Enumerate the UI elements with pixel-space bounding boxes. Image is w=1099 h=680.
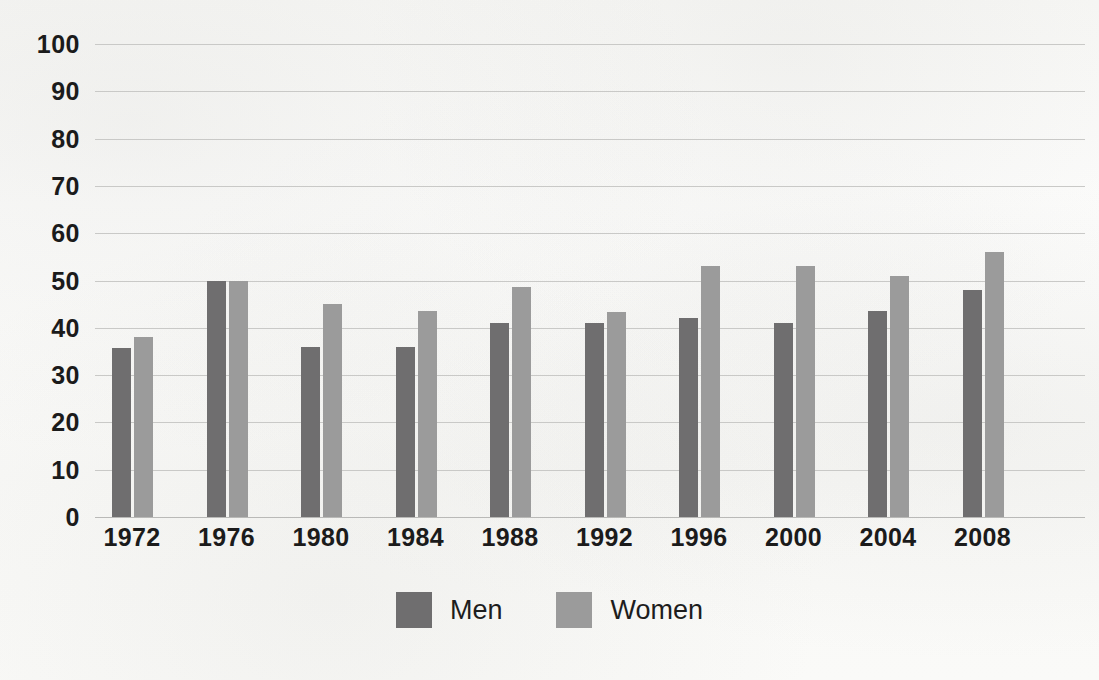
bar-group-2008 (963, 44, 1004, 517)
y-tick-label-90: 90 (8, 79, 80, 104)
bar-women-1988[interactable] (512, 287, 531, 517)
bar-men-1988[interactable] (490, 323, 509, 517)
x-tick-label-1996: 1996 (649, 525, 749, 550)
bar-women-1992[interactable] (607, 312, 626, 517)
x-axis: 1972197619801984198819921996200020042008 (95, 525, 1085, 565)
y-tick-label-0: 0 (8, 505, 80, 530)
bar-men-1996[interactable] (679, 318, 698, 517)
x-tick-label-1980: 1980 (271, 525, 371, 550)
bar-group-2004 (868, 44, 909, 517)
bar-women-2008[interactable] (985, 252, 1004, 517)
bar-men-1972[interactable] (112, 348, 131, 517)
y-tick-label-30: 30 (8, 363, 80, 388)
bar-group-1988 (490, 44, 531, 517)
x-tick-label-2000: 2000 (744, 525, 844, 550)
y-tick-label-100: 100 (8, 32, 80, 57)
bar-women-1980[interactable] (323, 304, 342, 517)
bar-women-2000[interactable] (796, 266, 815, 517)
bar-group-1972 (112, 44, 153, 517)
legend-item-men[interactable]: Men (396, 592, 503, 628)
x-tick-label-1972: 1972 (82, 525, 182, 550)
bar-women-1976[interactable] (229, 281, 248, 518)
x-tick-label-2008: 2008 (933, 525, 1033, 550)
y-tick-label-80: 80 (8, 126, 80, 151)
x-tick-label-1976: 1976 (177, 525, 277, 550)
bar-men-1984[interactable] (396, 347, 415, 517)
plot-area (95, 44, 1085, 517)
legend-swatch-women (556, 592, 592, 628)
x-tick-label-1992: 1992 (555, 525, 655, 550)
bar-men-2008[interactable] (963, 290, 982, 517)
x-tick-label-2004: 2004 (838, 525, 938, 550)
bar-group-1984 (396, 44, 437, 517)
bar-men-2004[interactable] (868, 311, 887, 517)
chart-legend: MenWomen (0, 592, 1099, 628)
bar-group-1976 (207, 44, 248, 517)
x-tick-label-1984: 1984 (366, 525, 466, 550)
bar-women-1972[interactable] (134, 337, 153, 517)
y-tick-label-20: 20 (8, 410, 80, 435)
legend-label-women: Women (610, 597, 703, 624)
bar-men-1992[interactable] (585, 323, 604, 517)
bar-women-1996[interactable] (701, 266, 720, 517)
bar-men-1976[interactable] (207, 281, 226, 518)
bar-group-1996 (679, 44, 720, 517)
y-tick-label-10: 10 (8, 457, 80, 482)
legend-label-men: Men (450, 597, 503, 624)
legend-item-women[interactable]: Women (556, 592, 703, 628)
bar-group-1980 (301, 44, 342, 517)
bar-group-1992 (585, 44, 626, 517)
y-axis: 1009080706050403020100 (0, 44, 80, 517)
bar-women-2004[interactable] (890, 276, 909, 517)
gridline-0 (95, 517, 1085, 518)
y-tick-label-60: 60 (8, 221, 80, 246)
grouped-bar-chart: 1009080706050403020100 19721976198019841… (0, 0, 1099, 680)
bar-men-1980[interactable] (301, 347, 320, 517)
bar-women-1984[interactable] (418, 311, 437, 517)
bar-group-2000 (774, 44, 815, 517)
y-tick-label-50: 50 (8, 268, 80, 293)
legend-swatch-men (396, 592, 432, 628)
bar-men-2000[interactable] (774, 323, 793, 517)
x-tick-label-1988: 1988 (460, 525, 560, 550)
y-tick-label-40: 40 (8, 315, 80, 340)
y-tick-label-70: 70 (8, 173, 80, 198)
